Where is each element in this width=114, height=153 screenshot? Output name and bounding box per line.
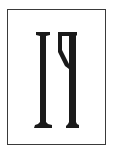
glyph-pair	[0, 0, 114, 153]
left-glyph	[34, 32, 52, 128]
right-glyph	[58, 32, 79, 128]
